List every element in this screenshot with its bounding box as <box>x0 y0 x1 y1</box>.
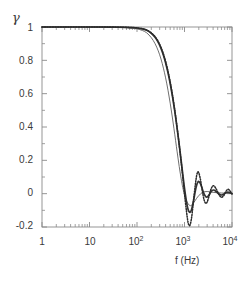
y-tick-label-0.6: 0.6 <box>3 89 33 99</box>
data-curves <box>42 27 232 226</box>
x-tick-label-1000: 103 <box>169 237 197 247</box>
x-tick-mantissa-1000: 10 <box>175 236 186 247</box>
curve-thin-solid <box>42 27 232 206</box>
y-tick-label-0.8: 0.8 <box>3 56 33 66</box>
chart-figure: γ 1 0.8 0.6 0.4 0.2 0 -0.2 1 10 102 103 … <box>0 0 251 286</box>
x-tick-mantissa-10000: 10 <box>222 236 233 247</box>
y-tick-label-minus0.2: -0.2 <box>0 221 33 231</box>
curve-thick-solid <box>42 27 232 212</box>
x-tick-label-1: 1 <box>28 237 56 247</box>
x-tick-mantissa-100: 10 <box>128 236 139 247</box>
x-tick-exponent-100: 2 <box>140 235 144 242</box>
x-tick-mantissa-10: 10 <box>84 236 95 247</box>
x-tick-label-10: 10 <box>76 237 104 247</box>
x-axis-label: f (Hz) <box>175 255 199 266</box>
y-tick-label-0: 0 <box>3 188 33 198</box>
x-tick-mantissa-1: 1 <box>39 236 45 247</box>
x-tick-label-10000: 104 <box>216 237 244 247</box>
x-tick-exponent-10000: 4 <box>234 235 238 242</box>
x-tick-exponent-1000: 3 <box>187 235 191 242</box>
x-tick-label-100: 102 <box>122 237 150 247</box>
y-tick-label-0.4: 0.4 <box>3 122 33 132</box>
curve-dotted <box>42 27 232 226</box>
y-tick-label-0.2: 0.2 <box>3 155 33 165</box>
y-tick-label-1: 1 <box>3 23 33 33</box>
